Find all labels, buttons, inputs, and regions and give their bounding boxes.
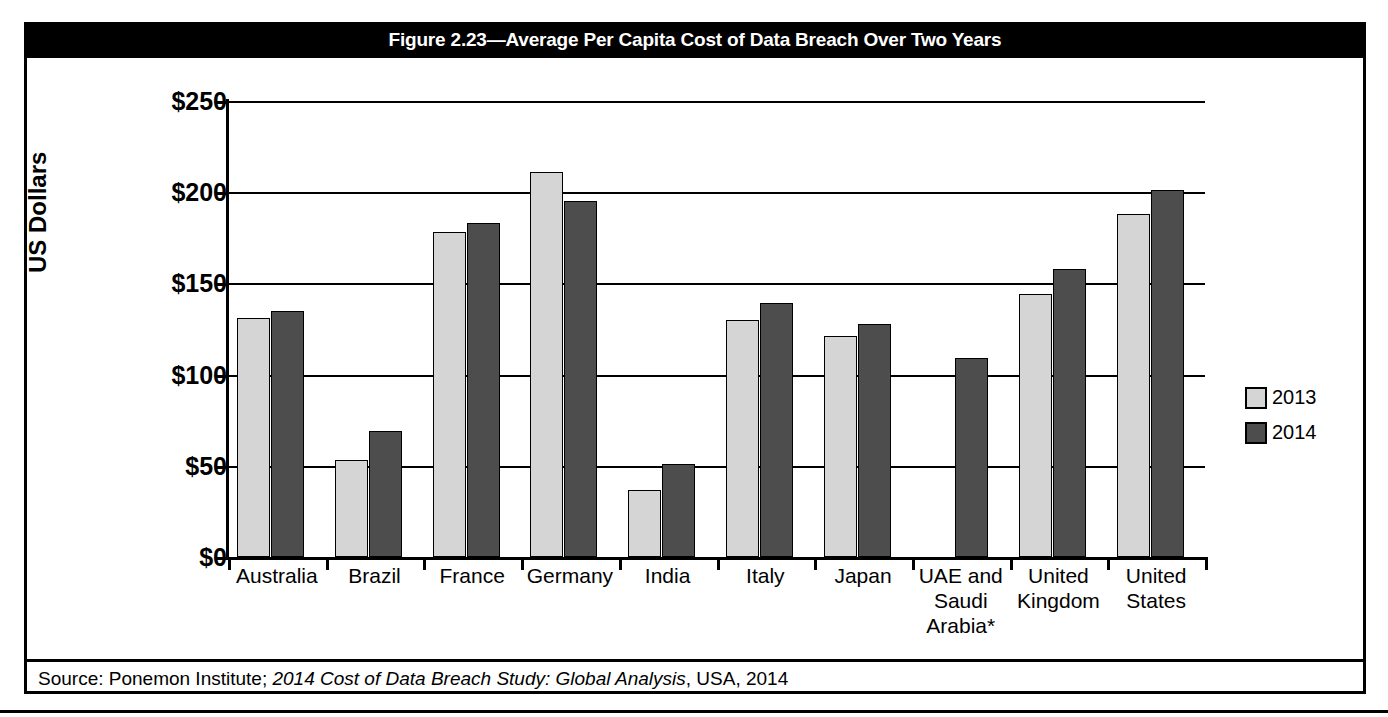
category-label: Japan — [814, 563, 912, 588]
bar-2014-italy — [760, 303, 793, 557]
category-label: France — [423, 563, 521, 588]
bar-2013-india — [628, 490, 661, 557]
category-label: UnitedKingdom — [1010, 563, 1108, 613]
category-label-line: States — [1107, 588, 1205, 613]
category-label: Germany — [521, 563, 619, 588]
category-label: UAE andSaudiArabia* — [912, 563, 1010, 638]
chart-legend: 2013 2014 — [1245, 386, 1355, 456]
category-label-line: Kingdom — [1010, 588, 1108, 613]
bar-2013-unitedstates — [1117, 214, 1150, 557]
plot-grid — [228, 101, 1205, 557]
y-axis-tick — [215, 101, 228, 104]
bar-2013-australia — [237, 318, 270, 557]
figure-page: Figure 2.23—Average Per Capita Cost of D… — [0, 0, 1388, 717]
bar-2014-unitedkingdom — [1053, 269, 1086, 557]
category-label-line: Australia — [228, 563, 326, 588]
category-label-line: Italy — [717, 563, 815, 588]
bar-2014-unitedstates — [1151, 190, 1184, 557]
legend-label-2013: 2013 — [1272, 386, 1317, 409]
legend-item-2013: 2013 — [1245, 386, 1355, 409]
bar-2013-germany — [530, 172, 563, 557]
x-axis-tick — [1205, 557, 1208, 570]
y-axis-title: US Dollars — [27, 152, 52, 273]
gridline — [228, 101, 1205, 103]
category-label: India — [619, 563, 717, 588]
category-label-line: France — [423, 563, 521, 588]
source-prefix: Source: Ponemon Institute; — [38, 668, 272, 689]
legend-swatch-2013 — [1245, 387, 1267, 409]
category-label-line: United — [1010, 563, 1108, 588]
category-label: Italy — [717, 563, 815, 588]
bar-2014-uaeandsaudiarabia — [955, 358, 988, 557]
legend-swatch-2014 — [1245, 422, 1267, 444]
source-suffix: , USA, 2014 — [686, 668, 788, 689]
category-label-line: United — [1107, 563, 1205, 588]
bar-2014-france — [467, 223, 500, 557]
bar-2013-japan — [824, 336, 857, 557]
bar-2014-australia — [271, 311, 304, 557]
category-label-line: UAE and — [912, 563, 1010, 588]
bar-2013-unitedkingdom — [1019, 294, 1052, 557]
source-title-italic: 2014 Cost of Data Breach Study: Global A… — [272, 668, 685, 689]
page-title: Figure 2.23—Average Per Capita Cost of D… — [389, 29, 1002, 51]
page-bottom-rule — [0, 710, 1388, 713]
chart-area: US Dollars $0$50$100$150$200$250 Austral… — [27, 58, 1363, 660]
category-label-line: Arabia* — [912, 613, 1010, 638]
bar-2014-brazil — [369, 431, 402, 557]
bar-2014-japan — [858, 324, 891, 557]
y-axis-tick — [215, 283, 228, 286]
category-label-line: Brazil — [326, 563, 424, 588]
y-axis-line — [226, 99, 229, 559]
x-axis-category-labels: AustraliaBrazilFranceGermanyIndiaItalyJa… — [228, 563, 1205, 653]
y-axis-tick — [215, 192, 228, 195]
category-label: Australia — [228, 563, 326, 588]
legend-item-2014: 2014 — [1245, 421, 1355, 444]
y-axis-tick — [215, 557, 228, 560]
category-label-line: Saudi — [912, 588, 1010, 613]
y-axis-tick-labels: $0$50$100$150$200$250 — [117, 101, 227, 557]
category-label-line: Japan — [814, 563, 912, 588]
category-label: Brazil — [326, 563, 424, 588]
category-label: UnitedStates — [1107, 563, 1205, 613]
bar-2014-germany — [564, 201, 597, 557]
category-label-line: Germany — [521, 563, 619, 588]
y-axis-tick — [215, 375, 228, 378]
source-note: Source: Ponemon Institute; 2014 Cost of … — [38, 668, 788, 690]
bar-2013-italy — [726, 320, 759, 557]
bar-2013-brazil — [335, 460, 368, 557]
bar-2014-india — [662, 464, 695, 557]
figure-title-band: Figure 2.23—Average Per Capita Cost of D… — [24, 22, 1366, 58]
source-divider — [24, 659, 1366, 662]
x-axis-line — [226, 557, 1205, 560]
legend-label-2014: 2014 — [1272, 421, 1317, 444]
gridline — [228, 192, 1205, 194]
category-label-line: India — [619, 563, 717, 588]
bar-2013-france — [433, 232, 466, 557]
y-axis-tick — [215, 466, 228, 469]
